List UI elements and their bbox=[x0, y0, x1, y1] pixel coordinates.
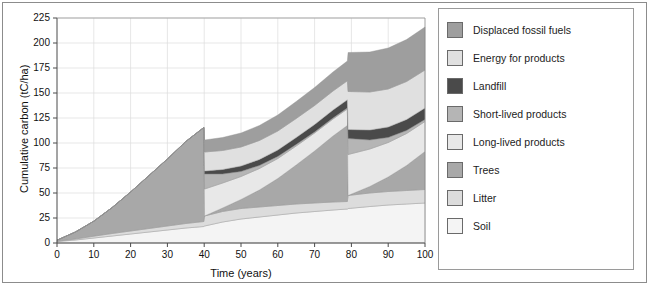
y-axis-tick-label: 75 bbox=[10, 162, 50, 173]
legend-item-label: Energy for products bbox=[473, 53, 565, 64]
y-axis-tick-label: 0 bbox=[10, 237, 50, 248]
x-axis-tick-label: 40 bbox=[184, 249, 224, 260]
y-axis-tick-label: 100 bbox=[10, 137, 50, 148]
legend-item-label: Landfill bbox=[473, 81, 506, 92]
x-axis-tick-label: 0 bbox=[37, 249, 77, 260]
y-axis-tick-label: 150 bbox=[10, 87, 50, 98]
x-axis-tick-label: 10 bbox=[74, 249, 114, 260]
y-axis-tick-label: 125 bbox=[10, 112, 50, 123]
legend-item-label: Long-lived products bbox=[473, 137, 565, 148]
y-axis-tick-label: 225 bbox=[10, 12, 50, 23]
y-axis-tick-label: 25 bbox=[10, 212, 50, 223]
legend-swatch-icon bbox=[447, 162, 463, 178]
y-axis-tick-label: 50 bbox=[10, 187, 50, 198]
legend-item-label: Short-lived products bbox=[473, 109, 566, 120]
legend-item: Litter bbox=[447, 187, 629, 209]
legend-item: Landfill bbox=[447, 75, 629, 97]
x-axis-tick-label: 90 bbox=[368, 249, 408, 260]
x-axis-tick-label: 20 bbox=[111, 249, 151, 260]
legend-swatch-icon bbox=[447, 190, 463, 206]
figure-container: Displaced fossil fuelsEnergy for product… bbox=[0, 0, 650, 287]
legend-item: Trees bbox=[447, 159, 629, 181]
y-axis-tick-label: 175 bbox=[10, 62, 50, 73]
legend-item: Energy for products bbox=[447, 47, 629, 69]
legend-swatch-icon bbox=[447, 106, 463, 122]
legend-item-label: Trees bbox=[473, 165, 499, 176]
x-axis-tick-label: 30 bbox=[147, 249, 187, 260]
legend-swatch-icon bbox=[447, 50, 463, 66]
legend-item-label: Litter bbox=[473, 193, 496, 204]
legend-swatch-icon bbox=[447, 218, 463, 234]
y-axis-tick-label: 200 bbox=[10, 37, 50, 48]
legend-swatch-icon bbox=[447, 22, 463, 38]
legend-item: Soil bbox=[447, 215, 629, 237]
x-axis-tick-label: 50 bbox=[221, 249, 261, 260]
legend-item-list: Displaced fossil fuelsEnergy for product… bbox=[447, 19, 629, 243]
x-axis-tick-label: 70 bbox=[295, 249, 335, 260]
legend-item-label: Soil bbox=[473, 221, 491, 232]
legend-swatch-icon bbox=[447, 78, 463, 94]
chart-legend: Displaced fossil fuelsEnergy for product… bbox=[438, 8, 634, 270]
legend-item: Short-lived products bbox=[447, 103, 629, 125]
y-axis-title: Cumulative carbon (tC/ha) bbox=[18, 64, 30, 192]
legend-item: Long-lived products bbox=[447, 131, 629, 153]
legend-item: Displaced fossil fuels bbox=[447, 19, 629, 41]
x-axis-tick-label: 100 bbox=[405, 249, 445, 260]
x-axis-title: Time (years) bbox=[201, 267, 281, 279]
legend-item-label: Displaced fossil fuels bbox=[473, 25, 571, 36]
x-axis-tick-label: 80 bbox=[331, 249, 371, 260]
x-axis-tick-label: 60 bbox=[258, 249, 298, 260]
legend-swatch-icon bbox=[447, 134, 463, 150]
